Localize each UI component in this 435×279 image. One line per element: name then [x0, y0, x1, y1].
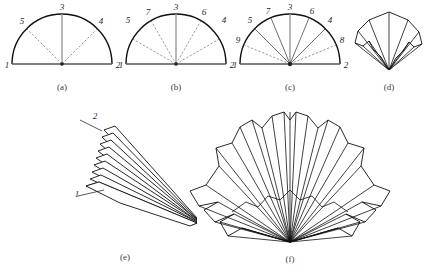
panel-d: (d) — [355, 12, 422, 92]
panel-b: 1 2 3 4 5 6 7 (b) — [119, 2, 235, 92]
panel-b-label-4: 4 — [222, 15, 227, 25]
panel-c-crease-4 — [290, 29, 325, 64]
panel-a-crease-5 — [27, 29, 62, 64]
panel-a-caption: (a) — [57, 82, 67, 92]
panel-e-pleat-stack — [86, 126, 197, 226]
panel-f-caption: (f) — [286, 254, 295, 264]
panel-c-hub — [288, 62, 292, 66]
panel-a-label-5: 5 — [20, 16, 25, 26]
panel-a-label-3: 3 — [59, 2, 65, 12]
panel-f-fan — [190, 112, 390, 242]
panel-e: 2 1 (e) — [75, 111, 197, 262]
panel-c-label-7: 7 — [266, 6, 271, 16]
panel-e-label-2: 2 — [93, 111, 98, 121]
panel-d-caption: (d) — [384, 82, 395, 92]
panel-c-label-6: 6 — [310, 6, 315, 16]
panel-c-label-5: 5 — [248, 15, 253, 25]
panel-c-label-3: 3 — [287, 2, 293, 12]
panel-b-label-5: 5 — [126, 15, 131, 25]
panel-c: 1 2 3 4 5 6 7 8 9 (c) — [233, 2, 349, 92]
panel-c-caption: (c) — [285, 82, 295, 92]
panel-c-crease-5 — [255, 29, 290, 64]
panel-b-label-1: 1 — [119, 60, 124, 70]
panel-e-label-1: 1 — [75, 189, 80, 199]
panel-b-label-7: 7 — [146, 7, 151, 17]
panel-b-label-3: 3 — [173, 2, 179, 12]
panel-c-label-1: 1 — [233, 60, 238, 70]
panel-a: 1 2 3 4 5 (a) — [5, 2, 121, 92]
folding-figure: 1 2 3 4 5 (a) 1 2 3 4 5 6 7 (b) 1 — [0, 0, 435, 279]
panel-c-label-9: 9 — [236, 35, 241, 45]
panel-c-label-4: 4 — [328, 15, 333, 25]
panel-b-crease-5 — [133, 39, 176, 64]
panel-f: (f) — [190, 112, 390, 264]
panel-b-caption: (b) — [171, 82, 182, 92]
panel-c-label-8: 8 — [340, 35, 345, 45]
panel-b-crease-6 — [176, 21, 201, 64]
panel-a-label-4: 4 — [99, 16, 104, 26]
panel-c-label-2: 2 — [344, 60, 349, 70]
panel-b-label-6: 6 — [202, 7, 207, 17]
panel-a-hub — [60, 62, 64, 66]
panel-b-crease-7 — [151, 21, 176, 64]
panel-e-leader-2 — [80, 120, 102, 131]
panel-b-crease-4 — [176, 39, 219, 64]
panel-a-crease-4 — [62, 29, 97, 64]
panel-a-label-1: 1 — [5, 60, 10, 70]
panel-e-caption: (e) — [120, 252, 130, 262]
panel-b-hub — [174, 62, 178, 66]
